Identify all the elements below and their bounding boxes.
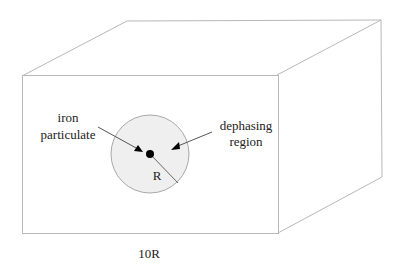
- box-dimension-label: 10R: [138, 246, 160, 261]
- radius-label: R: [153, 168, 162, 183]
- dephasing-region-diagram: iron particulate dephasing region R 10R: [0, 0, 403, 269]
- iron-particle: [146, 150, 154, 158]
- dephasing-label-line1: dephasing: [220, 118, 273, 133]
- iron-label-line2: particulate: [41, 127, 96, 142]
- box-top-face: [22, 20, 381, 76]
- iron-label-line1: iron: [58, 110, 79, 125]
- dephasing-label-line2: region: [229, 134, 263, 149]
- box-right-face: [278, 20, 382, 233]
